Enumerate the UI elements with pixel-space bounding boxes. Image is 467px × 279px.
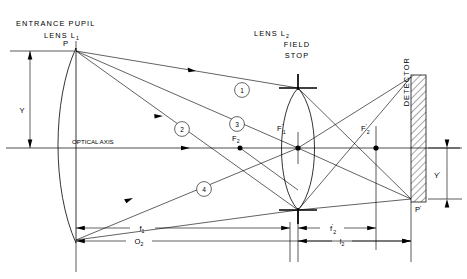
ray-number-2: 2 — [175, 122, 190, 137]
point-f2-label: F2 — [232, 134, 240, 144]
svg-text:1: 1 — [240, 87, 244, 94]
lens-l2-label: LENS L2 — [254, 29, 290, 39]
dimension-extension-lines — [76, 170, 411, 272]
dimension-f1-label: f1 — [139, 224, 144, 234]
svg-text:P': P' — [415, 205, 421, 214]
entrance-pupil-group: ENTRANCE PUPIL LENS L1 — [16, 19, 95, 51]
svg-text:F2: F2 — [232, 134, 240, 144]
dimension-f2prime: f'2 — [298, 223, 376, 234]
svg-text:3: 3 — [235, 121, 239, 128]
height-Yprime-label: Y' — [434, 171, 440, 180]
ray-number-4: 4 — [197, 182, 212, 197]
dimension-O2: O2 — [76, 237, 411, 247]
optical-axis-line — [6, 146, 460, 151]
optical-ray-diagram: DETECTOR ENTRANCE PUPIL LENS L1 — [0, 0, 467, 279]
dimension-l2-label: l2 — [340, 237, 345, 247]
svg-text:F'1: F'1 — [277, 123, 286, 134]
point-f2-dot — [238, 146, 243, 151]
dimension-Yprime: Y' — [428, 140, 462, 208]
entrance-pupil-label: ENTRANCE PUPIL — [16, 19, 95, 28]
point-pprime-label: P' — [415, 205, 421, 214]
point-f1prime-label: F'1 — [277, 123, 286, 134]
ray-number-1: 1 — [235, 83, 250, 98]
lens-l1 — [58, 48, 76, 243]
dimension-f2prime-label: f'2 — [330, 223, 336, 234]
lens-l2-group: LENS L2 FIELD STOP — [254, 29, 310, 60]
stop-label: STOP — [285, 51, 309, 60]
ray-bundle — [76, 51, 411, 240]
field-label: FIELD — [284, 40, 310, 49]
ray-number-3: 3 — [230, 117, 245, 132]
dimension-O2-label: O2 — [135, 237, 144, 247]
optical-axis-label: OPTICAL AXIS — [72, 138, 114, 145]
svg-text:F'2: F'2 — [361, 123, 370, 134]
height-Y-label: Y — [19, 106, 24, 115]
point-p-label: P — [63, 39, 68, 48]
point-f2prime-label: F'2 — [361, 123, 370, 134]
svg-text:4: 4 — [202, 186, 206, 193]
svg-text:2: 2 — [180, 126, 184, 133]
dimension-l2: l2 — [298, 237, 411, 247]
detector: DETECTOR — [402, 57, 426, 202]
dimension-Y: Y — [10, 51, 74, 148]
